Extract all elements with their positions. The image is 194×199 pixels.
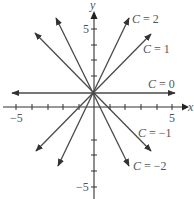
label-c2: C = 2 — [132, 12, 159, 26]
x-axis-label: x — [187, 100, 194, 114]
chart: −5 5 x 5 −5 y C = 2 C = 1 C = 0 C — [0, 0, 194, 199]
label-cm2: C = −2 — [133, 159, 167, 173]
label-cm1: C = −1 — [138, 126, 172, 140]
x-max-label: 5 — [169, 111, 175, 125]
y-axis-arrow-icon — [91, 11, 98, 19]
y-axis-label: y — [89, 0, 96, 12]
y-max-label: 5 — [83, 22, 89, 36]
label-c0: C = 0 — [148, 77, 175, 91]
y-min-label: −5 — [76, 180, 89, 194]
x-min-label: −5 — [10, 111, 23, 125]
label-c1: C = 1 — [143, 42, 170, 56]
